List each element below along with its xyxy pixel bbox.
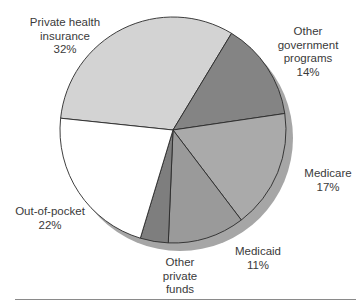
label-line: funds <box>150 283 210 297</box>
label-other-private-funds: Other private funds <box>150 256 210 297</box>
label-percent: 32% <box>20 43 110 57</box>
bottom-divider <box>15 299 356 300</box>
label-line: Out-of-pocket <box>12 205 88 219</box>
label-line: Other <box>150 256 210 270</box>
label-medicaid: Medicaid 11% <box>228 245 288 272</box>
label-medicare: Medicare 17% <box>298 167 358 194</box>
label-line: insurance <box>20 30 110 44</box>
label-line: Medicare <box>298 167 358 181</box>
label-out-of-pocket: Out-of-pocket 22% <box>12 205 88 232</box>
label-percent: 14% <box>268 66 348 80</box>
label-percent: 22% <box>12 219 88 233</box>
label-line: Private health <box>20 16 110 30</box>
label-line: private <box>150 270 210 284</box>
label-private-health-insurance: Private health insurance 32% <box>20 16 110 57</box>
label-percent: 11% <box>228 259 288 273</box>
label-percent: 17% <box>298 181 358 195</box>
label-line: programs <box>268 52 348 66</box>
label-line: government <box>268 39 348 53</box>
label-line: Medicaid <box>228 245 288 259</box>
label-line: Other <box>268 25 348 39</box>
label-other-government-programs: Other government programs 14% <box>268 25 348 79</box>
